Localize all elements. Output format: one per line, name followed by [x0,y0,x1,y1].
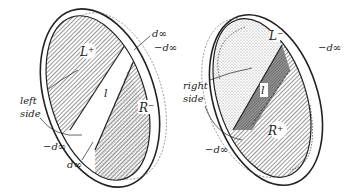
right-figure: L⁻ R⁺ l −d∞ −d∞ right side [183,0,343,193]
label-bottom-minus-d-inf: −d∞ [43,141,66,152]
label-R-minus: R⁻ [138,101,154,115]
diagram-canvas: L⁺ R⁻ l d∞ −d∞ −d∞ d∞ left side [0,0,360,193]
right-side-label-1: right [183,80,209,91]
label-L-minus: L⁻ [268,29,283,43]
label-strip-l: l [104,87,108,100]
label-top-minus-d-inf: −d∞ [154,42,177,53]
right-side-label-2: side [183,93,204,104]
left-figure: L⁺ R⁻ l d∞ −d∞ −d∞ d∞ left side [19,0,186,193]
left-side-label-1: left [20,95,38,106]
label-top-d-inf: d∞ [152,28,167,39]
label-L-plus: L⁺ [79,45,94,59]
label-strip-l-right: l [261,84,265,97]
left-side-label-2: side [20,108,41,119]
label-bottom-d-inf: d∞ [67,159,82,170]
label-top-minus-d-inf-right: −d∞ [318,42,341,53]
label-R-plus: R⁺ [267,124,283,138]
label-bottom-minus-d-inf-right: −d∞ [205,144,228,155]
